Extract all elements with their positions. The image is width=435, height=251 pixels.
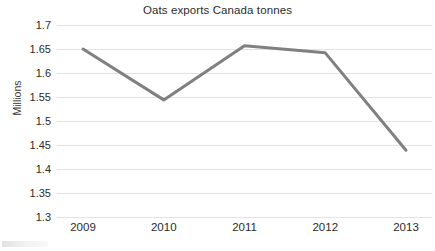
- chart-title: Oats exports Canada tonnes: [0, 4, 435, 16]
- series-line-oats-exports: [57, 25, 432, 217]
- y-axis-tick-label: 1.3: [5, 211, 51, 223]
- x-axis-tick-label: 2010: [129, 221, 199, 233]
- x-axis-tick-labels: 20092010201120122013: [57, 221, 432, 241]
- series-polyline: [83, 46, 406, 151]
- x-axis-tick-label: 2013: [371, 221, 435, 233]
- y-axis-tick-labels: 1.71.651.61.551.51.451.41.351.3: [3, 25, 51, 217]
- y-axis-tick-label: 1.7: [5, 19, 51, 31]
- y-axis-tick-label: 1.4: [5, 163, 51, 175]
- y-axis-tick-label: 1.45: [5, 139, 51, 151]
- x-axis-tick-label: 2009: [48, 221, 118, 233]
- y-axis-tick-label: 1.35: [5, 187, 51, 199]
- y-axis-tick-label: 1.65: [5, 43, 51, 55]
- gridline: [57, 217, 432, 218]
- line-chart: Oats exports Canada tonnes Millions 1.71…: [0, 0, 435, 251]
- x-axis-tick-label: 2012: [290, 221, 360, 233]
- y-axis-tick-label: 1.55: [5, 91, 51, 103]
- corner-watermark-artifact: [2, 241, 48, 247]
- y-axis-tick-label: 1.5: [5, 115, 51, 127]
- plot-area: [57, 25, 432, 217]
- y-axis-tick-label: 1.6: [5, 67, 51, 79]
- x-axis-tick-label: 2011: [210, 221, 280, 233]
